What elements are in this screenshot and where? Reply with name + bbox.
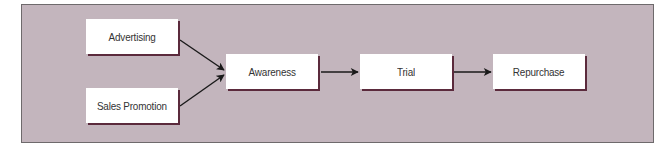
- node-label: Sales Promotion: [97, 100, 167, 112]
- node-label: Repurchase: [513, 66, 565, 78]
- node-label: Trial: [397, 66, 415, 78]
- arrow-advertising-to-awareness: [180, 40, 224, 70]
- node-advertising: Advertising: [86, 19, 178, 54]
- node-sales-promotion: Sales Promotion: [86, 88, 178, 123]
- arrow-sales-promotion-to-awareness: [180, 75, 224, 106]
- node-label: Advertising: [109, 31, 156, 43]
- node-trial: Trial: [360, 54, 452, 89]
- node-repurchase: Repurchase: [493, 54, 585, 89]
- node-awareness: Awareness: [226, 54, 318, 89]
- node-label: Awareness: [248, 66, 295, 78]
